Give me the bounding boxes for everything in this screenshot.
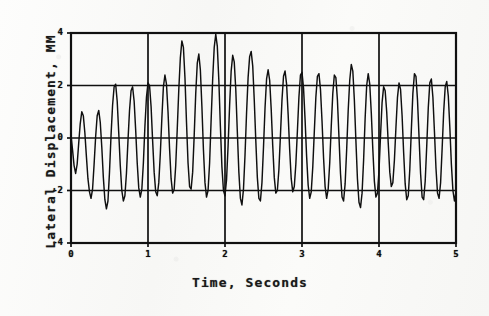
x-tick-label: 3	[293, 249, 311, 259]
x-tick-label: 5	[447, 249, 465, 259]
displacement-time-history-chart	[0, 0, 489, 316]
data-trace-line	[71, 34, 456, 209]
x-tick-label: 4	[370, 249, 388, 259]
scanned-figure-page: 420-2-4 012345 Lateral Displacement, MM …	[0, 0, 489, 316]
axis-tick-marks	[67, 33, 456, 247]
x-tick-label: 1	[139, 249, 157, 259]
y-axis-title: Lateral Displacement, MM	[43, 32, 58, 252]
x-axis-title: Time, Seconds	[120, 275, 380, 290]
x-tick-label: 2	[216, 249, 234, 259]
x-tick-label: 0	[62, 249, 80, 259]
